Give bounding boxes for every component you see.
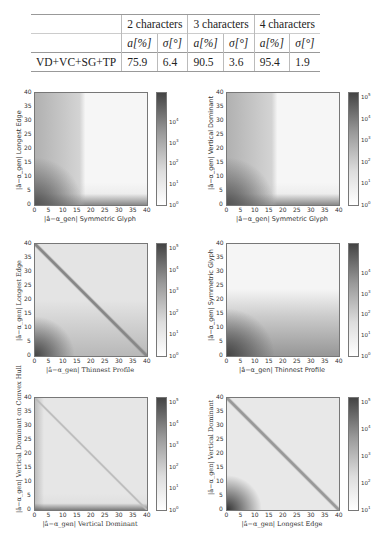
y-axis-label: |â−α_gen| Vertical Dominant on Convex Hu… bbox=[15, 365, 23, 513]
colorbar-tick-label: 100 bbox=[169, 200, 179, 208]
y-tick-label: 15 bbox=[216, 158, 224, 165]
y-tick-label: 10 bbox=[24, 172, 32, 179]
x-tick-label: 20 bbox=[279, 511, 287, 518]
x-tick-label: 5 bbox=[239, 357, 243, 364]
heatmap-plot-area bbox=[34, 397, 148, 511]
x-tick-label: 40 bbox=[335, 357, 343, 364]
colorbar-tick-label: 101 bbox=[169, 179, 179, 187]
y-tick-label: 40 bbox=[216, 393, 224, 400]
x-tick-label: 30 bbox=[307, 357, 315, 364]
x-tick-label: 0 bbox=[225, 357, 229, 364]
table-corner bbox=[31, 15, 122, 34]
x-tick-label: 35 bbox=[321, 206, 329, 213]
x-tick-label: 15 bbox=[73, 357, 81, 364]
y-tick-label: 15 bbox=[24, 309, 32, 316]
y-axis-label: |â−α_gen| Symmetric Glyph bbox=[207, 249, 215, 341]
y-tick-label: 15 bbox=[216, 309, 224, 316]
cell-value: 90.5 bbox=[188, 53, 224, 72]
x-tick-label: 15 bbox=[73, 206, 81, 213]
y-tick-label: 20 bbox=[216, 144, 224, 151]
x-tick-label: 10 bbox=[59, 511, 67, 518]
table-row: VD+VC+SG+TP 75.9 6.4 90.5 3.6 95.4 1.9 bbox=[31, 53, 320, 72]
y-tick-label: 35 bbox=[24, 102, 32, 109]
colorbar-tick-label: 103 bbox=[361, 289, 371, 297]
header-2-characters: 2 characters bbox=[122, 15, 188, 34]
heatmap-plot-area bbox=[34, 243, 148, 357]
x-tick-label: 25 bbox=[293, 511, 301, 518]
y-tick-label: 40 bbox=[216, 88, 224, 95]
heatmap-panel-4: 05101520253035400510152025303540|â−α_gen… bbox=[192, 231, 384, 381]
x-tick-label: 25 bbox=[293, 206, 301, 213]
colorbar-tick-label: 100 bbox=[361, 200, 371, 208]
y-tick-label: 35 bbox=[216, 407, 224, 414]
y-tick-label: 0 bbox=[27, 505, 31, 512]
x-tick-label: 5 bbox=[47, 357, 51, 364]
x-tick-label: 40 bbox=[143, 511, 151, 518]
y-tick-label: 20 bbox=[24, 144, 32, 151]
colorbar bbox=[156, 397, 167, 511]
x-axis-label: |â−α_gen| Vertical Dominant bbox=[34, 520, 146, 528]
subheader-accuracy: a[%] bbox=[122, 34, 158, 53]
x-tick-label: 15 bbox=[265, 206, 273, 213]
x-tick-label: 10 bbox=[59, 357, 67, 364]
y-axis-label: |â−α_gen| Vertical Dominant bbox=[207, 400, 215, 495]
results-table: 2 characters 3 characters 4 characters a… bbox=[31, 14, 320, 72]
x-tick-label: 15 bbox=[265, 511, 273, 518]
x-tick-label: 5 bbox=[47, 206, 51, 213]
x-tick-label: 15 bbox=[73, 511, 81, 518]
y-tick-label: 35 bbox=[216, 102, 224, 109]
x-tick-label: 15 bbox=[265, 357, 273, 364]
y-tick-label: 40 bbox=[24, 88, 32, 95]
y-tick-label: 30 bbox=[24, 267, 32, 274]
colorbar-tick-label: 101 bbox=[361, 330, 371, 338]
cell-value: 95.4 bbox=[254, 53, 290, 72]
heatmap-plot-area bbox=[226, 243, 340, 357]
x-tick-label: 0 bbox=[225, 206, 229, 213]
y-tick-label: 0 bbox=[219, 505, 223, 512]
row-label: VD+VC+SG+TP bbox=[31, 53, 122, 72]
x-tick-label: 0 bbox=[33, 206, 37, 213]
y-tick-label: 25 bbox=[216, 130, 224, 137]
x-tick-label: 40 bbox=[143, 357, 151, 364]
y-tick-label: 10 bbox=[216, 172, 224, 179]
y-tick-label: 10 bbox=[24, 323, 32, 330]
header-3-characters: 3 characters bbox=[188, 15, 254, 34]
y-tick-label: 0 bbox=[27, 351, 31, 358]
heatmap-plot-area bbox=[226, 397, 340, 511]
x-tick-label: 35 bbox=[321, 511, 329, 518]
x-axis-label: |â−α_gen| Symmetric Glyph bbox=[226, 215, 338, 223]
x-tick-label: 20 bbox=[279, 357, 287, 364]
colorbar-tick-label: 103 bbox=[361, 135, 371, 143]
x-tick-label: 20 bbox=[279, 206, 287, 213]
x-tick-label: 10 bbox=[251, 511, 259, 518]
y-tick-label: 30 bbox=[216, 267, 224, 274]
x-tick-label: 10 bbox=[59, 206, 67, 213]
x-tick-label: 0 bbox=[225, 511, 229, 518]
y-axis-label: |â−α_gen| Longest Edge bbox=[15, 260, 23, 341]
colorbar-tick-label: 104 bbox=[361, 114, 371, 122]
y-tick-label: 0 bbox=[219, 200, 223, 207]
y-tick-label: 15 bbox=[216, 463, 224, 470]
y-tick-label: 5 bbox=[27, 186, 31, 193]
x-tick-label: 25 bbox=[293, 357, 301, 364]
colorbar bbox=[348, 397, 359, 511]
colorbar-tick-label: 104 bbox=[361, 268, 371, 276]
y-tick-label: 5 bbox=[27, 337, 31, 344]
y-tick-label: 20 bbox=[24, 295, 32, 302]
y-tick-label: 10 bbox=[216, 323, 224, 330]
colorbar-tick-label: 105 bbox=[361, 92, 371, 100]
x-tick-label: 40 bbox=[335, 511, 343, 518]
subheader-accuracy: a[%] bbox=[188, 34, 224, 53]
colorbar-tick-label: 102 bbox=[169, 462, 179, 470]
x-axis-label: |â−α_gen| Thinnest Profile bbox=[34, 366, 146, 374]
colorbar-tick-label: 104 bbox=[169, 117, 179, 125]
x-tick-label: 0 bbox=[33, 511, 37, 518]
colorbar-tick-label: 100 bbox=[169, 505, 179, 513]
y-tick-label: 25 bbox=[24, 435, 32, 442]
table-corner-2 bbox=[31, 34, 122, 53]
x-tick-label: 5 bbox=[239, 206, 243, 213]
x-tick-label: 40 bbox=[335, 206, 343, 213]
heatmap-panel-1: 05101520253035400510152025303540|â−α_gen… bbox=[0, 80, 192, 230]
colorbar bbox=[348, 92, 359, 206]
colorbar-tick-label: 101 bbox=[169, 329, 179, 337]
